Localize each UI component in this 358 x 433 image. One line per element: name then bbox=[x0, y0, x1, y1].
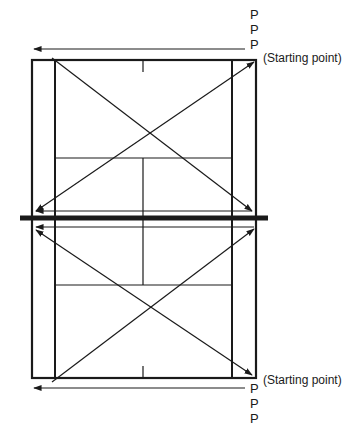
bottom-player-1: P bbox=[250, 382, 259, 395]
top-starting-point-label: (Starting point) bbox=[263, 52, 342, 64]
top-player-3: P bbox=[250, 38, 259, 51]
top-player-1: P bbox=[250, 8, 259, 21]
top-player-2: P bbox=[250, 23, 259, 36]
top-diagonal-down-arrow bbox=[52, 58, 252, 211]
court bbox=[20, 60, 268, 378]
bottom-starting-point-label: (Starting point) bbox=[263, 374, 342, 386]
bottom-diagonal-up-arrow bbox=[52, 229, 254, 382]
bottom-diagonal-cross-arrow bbox=[36, 230, 252, 375]
bottom-player-3: P bbox=[250, 412, 259, 425]
bottom-player-2: P bbox=[250, 397, 259, 410]
top-diagonal-cross-arrow bbox=[36, 62, 254, 211]
